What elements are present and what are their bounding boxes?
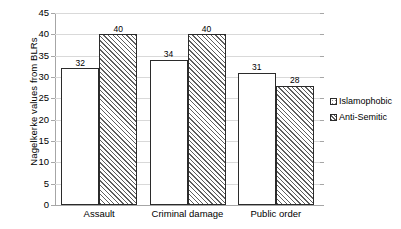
chart-legend: IslamophobicAnti-Semitic [330, 97, 392, 129]
y-axis-tick-label: 0 [44, 200, 49, 210]
y-axis-tick [51, 120, 55, 121]
x-axis-category-label: Assault [84, 209, 115, 219]
y-axis-title: Nagelkerke values from BLRs [28, 7, 39, 197]
y-axis-tick-label: 10 [38, 158, 49, 168]
y-axis-tick-right [320, 34, 324, 35]
legend-label: Islamophobic [339, 97, 392, 106]
bar-chart: Nagelkerke values from BLRs 051015202530… [0, 0, 401, 229]
bar-value-label: 31 [252, 63, 261, 72]
y-axis-tick-label: 35 [38, 51, 49, 61]
gridline [55, 13, 320, 14]
y-axis-tick-label: 40 [38, 30, 49, 40]
y-axis-tick [51, 56, 55, 57]
y-axis-tick [51, 77, 55, 78]
y-axis-tick-right [320, 184, 324, 185]
y-axis-tick [51, 205, 55, 206]
y-axis-tick-right [320, 13, 324, 14]
bar-value-label: 34 [164, 50, 173, 59]
y-axis-tick [51, 141, 55, 142]
y-axis-tick-label: 15 [38, 136, 49, 146]
legend-swatch-icon [330, 98, 337, 105]
y-axis-tick [51, 13, 55, 14]
bar: 31 [238, 73, 276, 205]
bar-value-label: 32 [75, 59, 84, 68]
y-axis-tick-right [320, 120, 324, 121]
y-axis-tick-right [320, 56, 324, 57]
y-axis-tick-label: 25 [38, 94, 49, 104]
legend-label: Anti-Semitic [339, 113, 387, 122]
bar: 32 [61, 68, 99, 205]
y-axis-tick-right [320, 77, 324, 78]
y-axis-tick [51, 98, 55, 99]
y-axis-tick-right [320, 205, 324, 206]
y-axis-tick-label: 20 [38, 115, 49, 125]
y-axis-line [55, 13, 56, 205]
bar: 40 [99, 34, 137, 205]
y-axis-tick [51, 162, 55, 163]
y-axis-tick-right [320, 98, 324, 99]
y-axis-tick-label: 30 [38, 72, 49, 82]
bar-value-label: 40 [113, 25, 122, 34]
bar-value-label: 40 [202, 25, 211, 34]
legend-item[interactable]: Anti-Semitic [330, 113, 392, 122]
y-axis-tick-right [320, 141, 324, 142]
x-axis-category-label: Criminal damage [152, 209, 224, 219]
y-axis-tick [51, 34, 55, 35]
x-axis-category-label: Public order [250, 209, 301, 219]
legend-swatch-icon [330, 114, 337, 121]
gridline [55, 205, 320, 206]
legend-item[interactable]: Islamophobic [330, 97, 392, 106]
y-axis-tick-label: 45 [38, 8, 49, 18]
plot-area: 051015202530354045324034403128 [55, 13, 320, 205]
y-axis-tick-right [320, 162, 324, 163]
y-axis-tick-label: 5 [44, 179, 49, 189]
bar: 28 [276, 86, 314, 205]
bar: 40 [188, 34, 226, 205]
bar: 34 [150, 60, 188, 205]
y-axis-tick [51, 184, 55, 185]
bar-value-label: 28 [290, 76, 299, 85]
